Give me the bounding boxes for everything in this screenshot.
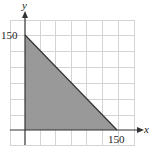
y-axis-label: y xyxy=(21,0,27,11)
x-tick-label: 150 xyxy=(108,133,125,145)
x-axis-arrow-icon xyxy=(137,127,144,133)
x-axis-label: x xyxy=(143,123,149,135)
y-tick-label: 150 xyxy=(1,29,18,41)
y-axis-arrow-icon xyxy=(22,11,28,18)
chart-canvas: y x 150 150 xyxy=(0,0,150,154)
